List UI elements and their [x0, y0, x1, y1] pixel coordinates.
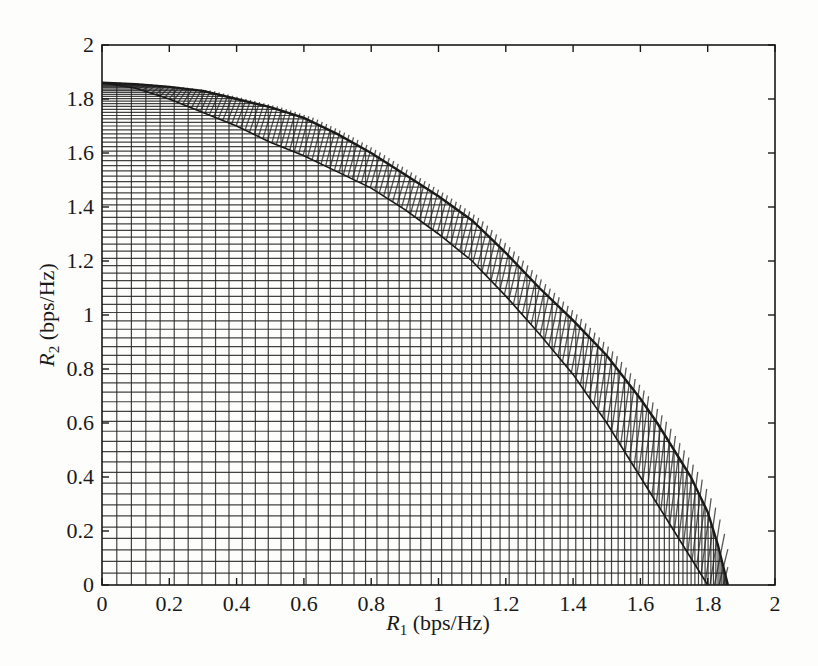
x-tick-label: 1.2 [492, 591, 520, 616]
x-tick-label: 0.4 [223, 591, 251, 616]
band-hatch-line [688, 472, 698, 553]
y-tick-label: 1.6 [67, 140, 95, 165]
band-hatch-line [223, 96, 233, 121]
band-hatch-line [321, 126, 331, 164]
band-hatch-line [308, 120, 318, 158]
y-tick-label: 0.2 [67, 518, 95, 543]
y-tick-label: 1.8 [67, 86, 95, 111]
inner-boundary-curve [102, 83, 708, 585]
rate-region-chart: 00.20.40.60.811.21.41.61.82 00.20.40.60.… [0, 0, 818, 666]
band-hatch-line [267, 106, 277, 140]
x-tick-label: 0.8 [357, 591, 385, 616]
x-axis-label: R1 (bps/Hz) [385, 610, 489, 638]
x-tick-label: 0.6 [290, 591, 318, 616]
y-tick-label: 0 [83, 572, 94, 597]
band-hatch-line [312, 122, 322, 160]
y-tick-label: 0.4 [67, 464, 95, 489]
band-hatch-line [303, 118, 313, 156]
x-tick-label: 1.8 [694, 591, 722, 616]
band-hatch-line [330, 130, 340, 168]
y-axis-label: R2 (bps/Hz) [34, 263, 62, 367]
x-tick-label: 1.6 [627, 591, 655, 616]
y-tick-label: 1 [83, 302, 94, 327]
x-tick-label: 0.2 [156, 591, 184, 616]
y-tick-label: 1.4 [67, 194, 95, 219]
band-hatch-line [232, 98, 242, 124]
y-tick-label: 1.2 [67, 248, 95, 273]
x-tick-label: 0 [97, 591, 108, 616]
y-tick-label: 0.6 [67, 410, 95, 435]
outer-boundary-curve [102, 83, 728, 585]
y-tick-labels: 00.20.40.60.811.21.41.61.82 [67, 32, 95, 597]
x-tick-label: 2 [770, 591, 781, 616]
x-tick-label: 1.4 [559, 591, 587, 616]
y-tick-label: 2 [83, 32, 94, 57]
y-tick-label: 0.8 [67, 356, 95, 381]
rate-region-mesh [102, 83, 728, 585]
